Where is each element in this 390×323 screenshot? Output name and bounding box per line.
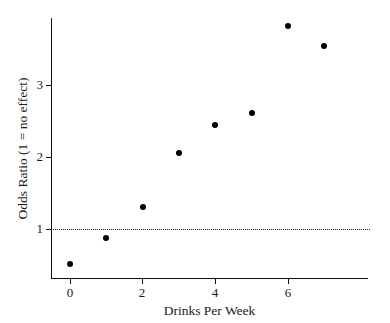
y-tick-mark-3 xyxy=(46,85,51,86)
x-axis-title: Drinks Per Week xyxy=(51,303,368,318)
plot-area: 1 2 3 0 2 4 6 Drinks Per Week Odds Ratio… xyxy=(0,0,390,323)
y-tick-label-3: 3 xyxy=(37,78,44,91)
data-point xyxy=(212,122,218,128)
y-axis-title: Odds Ratio (1 = no effect) xyxy=(14,18,32,279)
y-tick-label-1: 1 xyxy=(37,222,44,235)
y-tick-mark-2 xyxy=(46,157,51,158)
x-tick-label-6: 6 xyxy=(276,286,300,300)
scatter-chart-figure: 1 2 3 0 2 4 6 Drinks Per Week Odds Ratio… xyxy=(0,0,390,323)
x-tick-mark-2 xyxy=(142,279,143,284)
x-tick-mark-0 xyxy=(70,279,71,284)
data-point xyxy=(140,204,146,210)
y-axis-line xyxy=(51,18,52,279)
x-tick-label-4: 4 xyxy=(203,286,227,300)
data-point xyxy=(321,43,327,49)
data-point xyxy=(285,23,291,29)
x-axis-line xyxy=(51,278,368,279)
data-point xyxy=(67,261,73,267)
no-effect-reference-line xyxy=(51,229,370,231)
data-point xyxy=(103,235,109,241)
data-point xyxy=(176,150,182,156)
data-point xyxy=(249,110,255,116)
x-tick-label-0: 0 xyxy=(58,286,82,300)
x-tick-mark-6 xyxy=(288,279,289,284)
x-tick-label-2: 2 xyxy=(130,286,154,300)
y-tick-label-2: 2 xyxy=(37,150,44,163)
x-tick-mark-4 xyxy=(215,279,216,284)
